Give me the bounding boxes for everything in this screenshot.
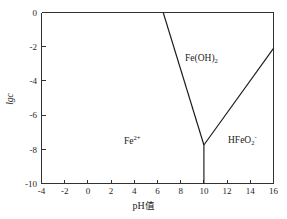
phase-diagram-figure: -4 -2 0 2 4 6 8 10 12 14 16 0 -2 -4 -6 -… (0, 0, 287, 219)
y-tick-label--4: -4 (30, 76, 38, 86)
region-label-hfeo2minus-sup: - (255, 133, 257, 140)
y-tick-label--8: -8 (30, 145, 38, 155)
region-label-fe-oh-2-sub: 2 (215, 57, 218, 64)
x-tick-label--4: -4 (38, 186, 46, 196)
region-label-fe2plus-sup: 2+ (134, 134, 141, 141)
plot-svg: -4 -2 0 2 4 6 8 10 12 14 16 0 -2 -4 -6 -… (0, 0, 287, 219)
x-axis-title: pH值 (0, 198, 287, 212)
x-tick-label-4: 4 (132, 186, 137, 196)
y-tick-labels: 0 -2 -4 -6 -8 -10 (25, 8, 38, 189)
x-axis-title-cjk: 值 (145, 200, 155, 211)
phase-boundaries (163, 13, 273, 184)
region-label-hfeo2minus: HFeO2- (228, 136, 257, 146)
boundary-line-fe2-feoh2 (163, 13, 204, 146)
region-label-fe-oh-2: Fe(OH)2 (185, 54, 218, 64)
x-tick-label-2: 2 (109, 186, 114, 196)
plot-frame (42, 13, 274, 184)
x-tick-label-6: 6 (155, 186, 160, 196)
frame-rect (42, 13, 274, 184)
x-tick-label-8: 8 (178, 186, 183, 196)
region-label-fe2plus: Fe2+ (124, 137, 141, 147)
y-axis-title: lgc (5, 84, 15, 114)
x-tick-label-0: 0 (86, 186, 91, 196)
region-label-fe2plus-base: Fe (124, 136, 134, 146)
x-tick-label-10: 10 (199, 186, 209, 196)
x-tick-label-12: 12 (223, 186, 232, 196)
x-tick-label-14: 14 (246, 186, 256, 196)
region-label-hfeo2minus-base: HFeO (228, 135, 251, 145)
y-tick-label-0: 0 (33, 8, 38, 18)
x-axis-title-latin: pH (132, 200, 144, 211)
x-tick-label--2: -2 (61, 186, 69, 196)
region-label-hfeo2minus-sub: 2 (251, 139, 254, 146)
y-ticks (42, 13, 46, 184)
x-tick-labels: -4 -2 0 2 4 6 8 10 12 14 16 (38, 186, 279, 196)
y-axis-title-wrap: lgc (2, 88, 16, 118)
y-tick-label--10: -10 (25, 179, 37, 189)
x-ticks (42, 180, 274, 184)
x-tick-label-16: 16 (269, 186, 279, 196)
region-label-fe-oh-2-base: Fe(OH) (185, 53, 215, 63)
y-tick-label--6: -6 (30, 110, 38, 120)
y-tick-label--2: -2 (30, 42, 38, 52)
